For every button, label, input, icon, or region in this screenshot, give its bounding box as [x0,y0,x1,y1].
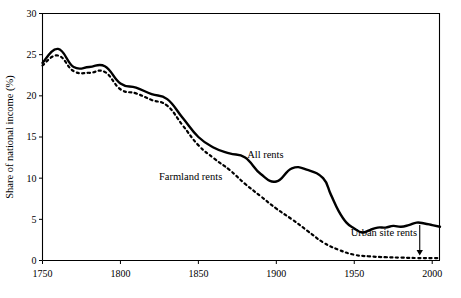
urban-site-rents-label: Urban site rents [351,227,417,238]
y-tick-label: 30 [27,8,37,19]
x-tick-label: 1800 [110,268,130,279]
y-tick-label: 0 [32,255,37,266]
y-axis-ticks: 051015202530 [27,8,43,266]
y-tick-label: 10 [27,173,37,184]
chart-annotations: All rentsFarmland rentsUrban site rents [159,149,423,256]
y-axis-title: Share of national income (%) [4,75,16,199]
all-rents-line [43,49,441,233]
x-tick-label: 1900 [266,268,286,279]
x-tick-label: 2000 [422,268,442,279]
all-rents-label: All rents [247,149,283,160]
x-tick-label: 1750 [33,268,53,279]
chart-figure: 051015202530 175018001850190019502000 Al… [0,0,461,298]
y-tick-label: 25 [27,49,37,60]
y-tick-label: 5 [32,214,37,225]
line-chart: 051015202530 175018001850190019502000 Al… [0,0,461,298]
x-tick-label: 1850 [188,268,208,279]
annotation-arrow-head [417,250,423,256]
y-tick-label: 20 [27,90,37,101]
y-tick-label: 15 [27,131,37,142]
farmland-rents-label: Farmland rents [159,171,222,182]
x-axis-ticks: 175018001850190019502000 [33,261,443,279]
x-tick-label: 1950 [344,268,364,279]
axes [43,13,441,261]
